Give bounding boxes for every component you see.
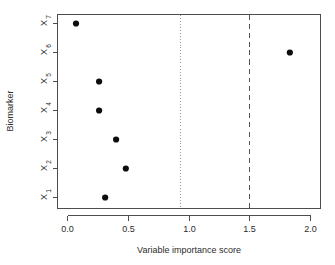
y-tick-label-x7-sub: 7 (45, 15, 52, 19)
data-point-x6 (287, 49, 293, 55)
plot-svg: X 7 X 6 X 5 X 4 X 3 X 2 (0, 0, 335, 265)
y-tick-label-x4-base: X (39, 107, 49, 113)
y-tick-label-x2-sub: 2 (45, 160, 52, 164)
y-tick-label-x6-base: X (39, 49, 49, 55)
x-tick-label-2: 1.0 (183, 224, 196, 234)
x-axis (68, 216, 311, 221)
y-tick-label-x5-sub: 5 (45, 73, 52, 77)
y-tick-label-x3-base: X (39, 136, 49, 142)
y-tick-label-x5-base: X (39, 78, 49, 84)
data-point-x2 (123, 165, 129, 171)
y-tick-label-x7-base: X (39, 20, 49, 26)
data-point-x3 (113, 136, 119, 142)
y-axis-ticks (53, 24, 58, 198)
y-tick-label-x1-base: X (39, 194, 49, 200)
x-axis-tick-labels: 0.0 0.5 1.0 1.5 2.0 (61, 224, 317, 234)
x-axis-title: Variable importance score (137, 245, 241, 255)
y-axis-tick-labels: X 7 X 6 X 5 X 4 X 3 X 2 (39, 15, 52, 200)
y-tick-label-x2-base: X (39, 165, 49, 171)
data-point-x5 (96, 78, 102, 84)
x-tick-label-0: 0.0 (61, 224, 74, 234)
data-points-layer (73, 20, 293, 200)
y-tick-label-x1-sub: 1 (45, 189, 52, 193)
y-tick-label-x3-sub: 3 (45, 131, 52, 135)
x-tick-label-3: 1.5 (243, 224, 256, 234)
reference-lines (181, 15, 250, 209)
y-axis-title: Biomarker (5, 90, 15, 131)
data-point-x4 (96, 107, 102, 113)
y-tick-label-x4-sub: 4 (45, 102, 52, 106)
data-point-x7 (73, 20, 79, 26)
x-tick-label-1: 0.5 (122, 224, 135, 234)
x-tick-label-4: 2.0 (304, 224, 317, 234)
data-point-x1 (102, 194, 108, 200)
variable-importance-scatter-plot: X 7 X 6 X 5 X 4 X 3 X 2 (0, 0, 335, 265)
y-tick-label-x6-sub: 6 (45, 44, 52, 48)
